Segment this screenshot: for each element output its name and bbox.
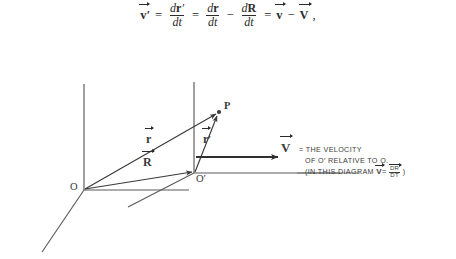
annotation-line3-text: (in this diagram (305, 167, 374, 176)
annotation-equals: = (382, 167, 387, 176)
annotation-line-1: = The velocity (299, 145, 362, 154)
label-point-p: P (224, 100, 230, 111)
vector-r-prime-mark: ′ (208, 134, 211, 145)
vector-R-arrow (85, 172, 192, 189)
label-origin-o-prime: O′ (196, 173, 206, 184)
annotation-line-3: (in this diagram V= dR dt ) (305, 166, 405, 178)
vector-r-symbol: r (146, 132, 151, 147)
annotation-V: V (376, 167, 382, 176)
annotation-dt: dt (389, 173, 400, 179)
annotation-close-paren: ) (403, 167, 406, 176)
figure-canvas: v′ = dr′ dt = dr dt − dR dt = v − V, (0, 0, 456, 259)
label-origin-o: O (70, 181, 78, 192)
annotation-fraction: dR dt (389, 166, 400, 178)
axis-o-depth (42, 190, 84, 252)
label-vector-r: r (146, 132, 151, 147)
vector-R-symbol: R (143, 155, 152, 170)
point-p-marker (217, 110, 221, 114)
label-vector-R: R (143, 155, 152, 170)
annotation-dR: dR (390, 166, 399, 172)
annotation-V-symbol: V (376, 167, 382, 176)
label-vector-V: V (281, 140, 290, 156)
annotation-line-2: of O′ Relative to O. (305, 156, 388, 165)
vector-diagram (0, 0, 456, 259)
vector-V-symbol: V (281, 140, 290, 156)
label-vector-r-prime: r′ (203, 132, 211, 147)
annotation-frac-numerator: dR (389, 166, 400, 173)
vector-r-prime-symbol: r (203, 132, 208, 147)
